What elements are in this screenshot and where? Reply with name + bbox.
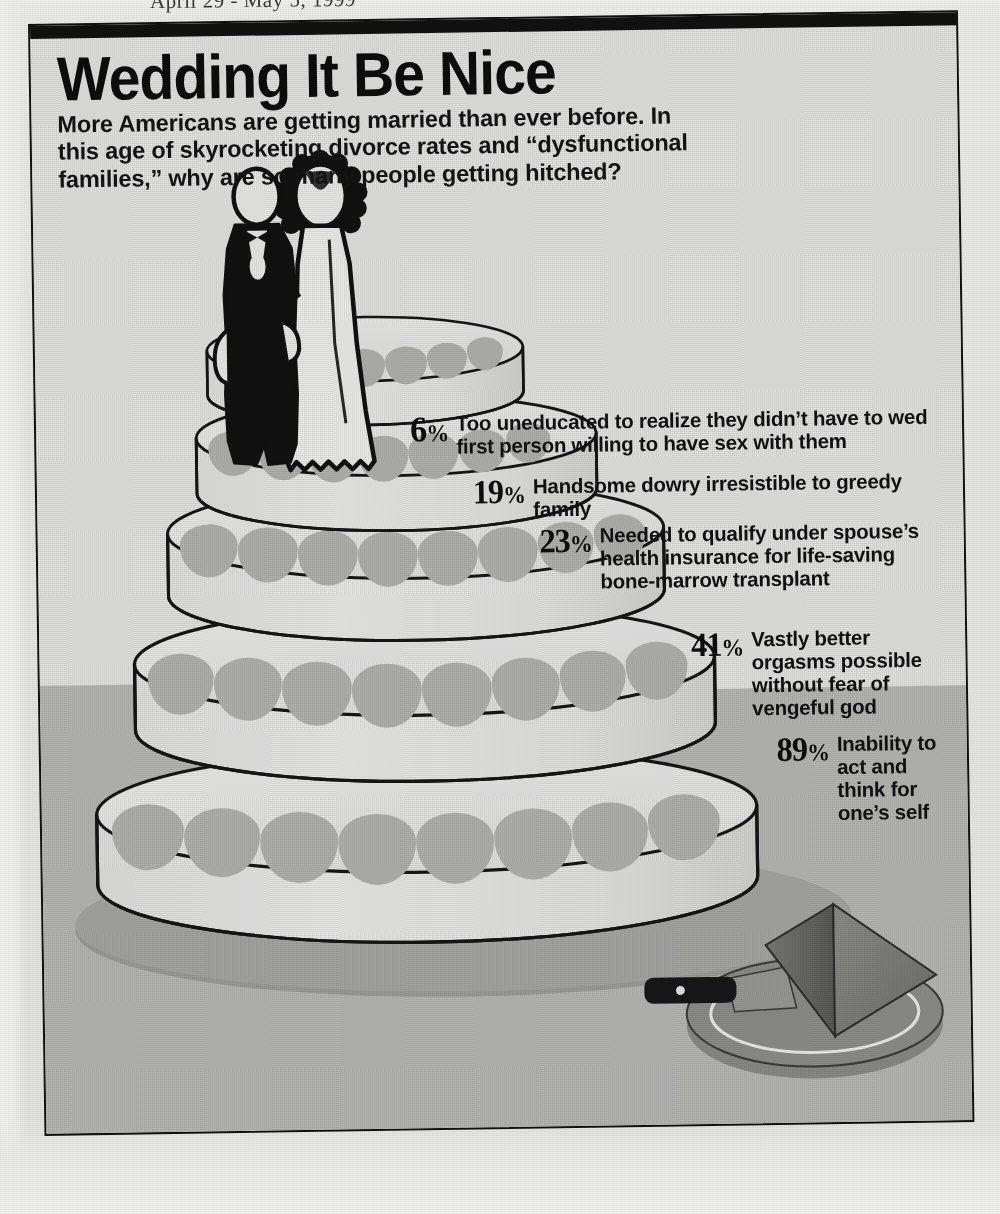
stat-callout-41: 41% Vastly better orgasms possible witho… [687, 625, 942, 721]
stat-callout-89: 89% Inability to act and think for one’s… [773, 730, 956, 825]
stat-label: Too uneducated to realize they didn’t ha… [456, 404, 963, 458]
stat-percent: 6% [408, 412, 448, 447]
page-title: Wedding It Be Nice [56, 38, 848, 109]
infographic-panel: Wedding It Be Nice More Americans are ge… [28, 10, 974, 1136]
stat-callout-6: 6% Too uneducated to realize they didn’t… [406, 404, 963, 459]
stat-percent: 19% [472, 475, 526, 508]
torn-edge-left [0, 0, 26, 1214]
dateline: April 29 - May 5, 1999 [150, 0, 356, 14]
stat-callout-19: 19% Handsome dowry irresistible to greed… [469, 468, 964, 522]
stat-label: Inability to act and think for one’s sel… [837, 730, 956, 824]
stat-callout-23: 23% Needed to qualify under spouse’s hea… [535, 519, 940, 594]
headline-block: Wedding It Be Nice More Americans are ge… [56, 37, 918, 195]
stat-percent: 23% [538, 524, 592, 557]
infographic-panel-wrapper: Wedding It Be Nice More Americans are ge… [28, 10, 974, 1136]
cake-server-handle [644, 977, 736, 1004]
stat-label: Handsome dowry irresistible to greedy fa… [533, 468, 964, 521]
newspaper-page: April 29 - May 5, 1999 Wedding It Be Nic… [0, 0, 1000, 1214]
stat-percent: 41% [690, 627, 744, 660]
stat-percent: 89% [775, 732, 829, 765]
bride-and-groom-topper [212, 149, 375, 471]
stat-label: Needed to qualify under spouse’s health … [599, 519, 940, 594]
stat-label: Vastly better orgasms possible without f… [751, 625, 942, 720]
headline-deck: More Americans are getting married than … [57, 102, 703, 195]
